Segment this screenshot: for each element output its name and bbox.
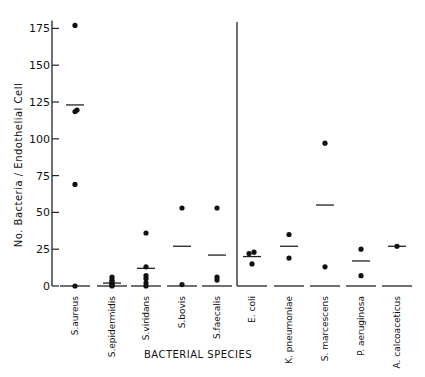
y-tick-label: 125: [29, 96, 50, 109]
y-tick-label: 100: [29, 133, 50, 146]
mean-markers: [66, 105, 406, 283]
y-tick-label: 75: [36, 170, 50, 183]
data-point: [394, 244, 399, 249]
data-point: [322, 141, 327, 146]
category-label: S.faecalis: [212, 296, 222, 339]
category-label: S.bovis: [177, 296, 187, 329]
data-point: [358, 247, 363, 252]
y-tick-label: 25: [36, 243, 50, 256]
data-point: [286, 255, 291, 260]
data-point: [72, 182, 77, 187]
y-tick-label: 0: [43, 280, 50, 293]
data-point: [286, 232, 291, 237]
data-point: [358, 273, 363, 278]
y-tick-label: 150: [29, 59, 50, 72]
data-point: [246, 251, 251, 256]
data-point: [249, 261, 254, 266]
scatter-chart: 0255075100125150175 S.aureusS.epidermidi…: [0, 0, 425, 377]
data-point: [251, 250, 256, 255]
data-points: [72, 23, 399, 289]
data-point: [143, 230, 148, 235]
x-axis-title: BACTERIAL SPECIES: [144, 349, 252, 360]
data-point: [214, 278, 219, 283]
category-label: S.viridans: [141, 296, 151, 341]
category-label: S. marcescens: [320, 296, 330, 362]
y-tick-label: 50: [36, 206, 50, 219]
data-point: [179, 205, 184, 210]
category-label: S.epidermidis: [107, 296, 117, 358]
data-point: [109, 283, 114, 288]
data-point: [72, 109, 77, 114]
data-point: [322, 264, 327, 269]
data-point: [72, 23, 77, 28]
data-point: [214, 205, 219, 210]
category-label: K. pneumoniae: [284, 296, 294, 364]
category-label: A. calcoaceticus: [392, 296, 402, 369]
category-label: E. coli: [247, 296, 257, 323]
y-axis-title: No. Bacteria / Endothelial Cell: [13, 83, 24, 247]
data-point: [143, 283, 148, 288]
y-axis: 0255075100125150175: [29, 20, 59, 293]
data-point: [143, 264, 148, 269]
data-point: [72, 283, 77, 288]
data-point: [179, 282, 184, 287]
category-label: S.aureus: [70, 296, 80, 336]
category-label: P. aeruginosa: [356, 296, 366, 356]
y-tick-label: 175: [29, 22, 50, 35]
